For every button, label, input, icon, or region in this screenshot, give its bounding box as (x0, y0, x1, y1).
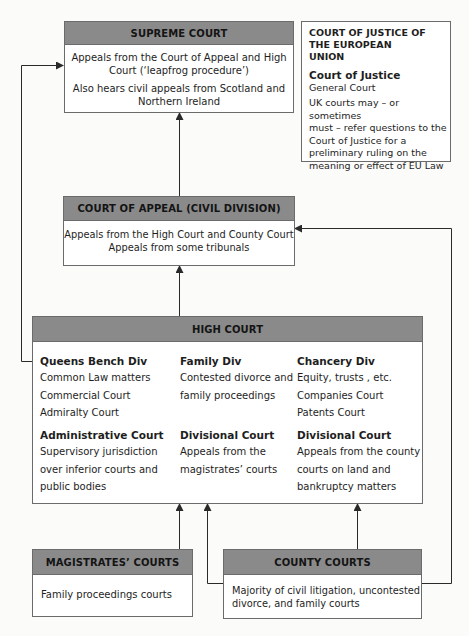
supreme-court-line: Appeals from the Court of Appeal and Hig… (65, 51, 293, 64)
cjeu-desc-line: must – refer questions to the (309, 122, 450, 135)
supreme-court-line: Also hears civil appeals from Scotland a… (65, 82, 293, 95)
supreme-court-box: SUPREME COURT Appeals from the Court of … (64, 21, 294, 113)
arrow-county-to-hc-left (208, 504, 224, 584)
division-queens-bench: Queens Bench Div Common Law matters Comm… (40, 354, 150, 422)
cjeu-desc-line: UK courts may – or sometimes (309, 97, 450, 122)
cjeu-title-line: COURT OF JUSTICE OF (309, 27, 450, 39)
cjeu-title-line: UNION (309, 51, 450, 63)
county-courts-line: divorce, and family courts (232, 597, 421, 610)
division-line: public bodies (40, 478, 164, 496)
division-divisional-magistrates: Divisional Court Appeals from the magist… (180, 428, 277, 478)
court-of-appeal-line: Appeals from some tribunals (64, 241, 294, 254)
high-court-title: HIGH COURT (33, 317, 422, 342)
cjeu-subtitle: Court of Justice (309, 69, 450, 82)
division-line: Appeals from the county (297, 443, 420, 461)
division-line: bankruptcy matters (297, 478, 420, 496)
cjeu-box: COURT OF JUSTICE OF THE EUROPEAN UNION C… (301, 21, 451, 162)
magistrates-courts-title: MAGISTRATES’ COURTS (33, 550, 192, 575)
division-line: Equity, trusts , etc. (297, 369, 392, 387)
cjeu-general-court: General Court (309, 82, 450, 94)
division-line: Common Law matters (40, 369, 150, 387)
court-of-appeal-title: COURT OF APPEAL (CIVIL DIVISION) (64, 197, 294, 221)
division-title: Administrative Court (40, 428, 164, 443)
division-line: Admiralty Court (40, 404, 150, 422)
division-divisional-county: Divisional Court Appeals from the county… (297, 428, 420, 496)
magistrates-courts-box: MAGISTRATES’ COURTS Family proceedings c… (32, 549, 193, 617)
cjeu-desc-line: preliminary ruling on the (309, 147, 450, 160)
division-line: Patents Court (297, 404, 392, 422)
county-courts-title: COUNTY COURTS (224, 550, 421, 575)
division-line: family proceedings (180, 387, 293, 405)
division-line: courts on land and (297, 461, 420, 479)
division-line: Supervisory jurisdiction (40, 443, 164, 461)
cjeu-desc-line: Court of Justice for a (309, 135, 450, 148)
division-title: Family Div (180, 354, 293, 369)
division-title: Divisional Court (180, 428, 277, 443)
court-of-appeal-line: Appeals from the High Court and County C… (64, 228, 294, 241)
division-administrative: Administrative Court Supervisory jurisdi… (40, 428, 164, 496)
division-line: Appeals from the (180, 443, 277, 461)
division-line: Companies Court (297, 387, 392, 405)
division-line: over inferior courts and (40, 461, 164, 479)
division-line: Commercial Court (40, 387, 150, 405)
division-chancery: Chancery Div Equity, trusts , etc. Compa… (297, 354, 392, 422)
supreme-court-title: SUPREME COURT (65, 22, 293, 45)
cjeu-desc-line: meaning or effect of EU Law (309, 160, 450, 173)
division-family: Family Div Contested divorce and family … (180, 354, 293, 404)
supreme-court-line: Northern Ireland (65, 95, 293, 108)
division-line: magistrates’ courts (180, 461, 277, 479)
division-title: Queens Bench Div (40, 354, 150, 369)
supreme-court-line: Court (‘leapfrog procedure’) (65, 64, 293, 77)
division-title: Chancery Div (297, 354, 392, 369)
division-title: Divisional Court (297, 428, 420, 443)
county-courts-box: COUNTY COURTS Majority of civil litigati… (223, 549, 422, 619)
high-court-box: HIGH COURT Queens Bench Div Common Law m… (32, 316, 423, 504)
county-courts-line: Majority of civil litigation, unconteste… (232, 584, 421, 597)
division-line: Contested divorce and (180, 369, 293, 387)
cjeu-title-line: THE EUROPEAN (309, 39, 450, 51)
magistrates-courts-line: Family proceedings courts (33, 575, 192, 600)
court-of-appeal-box: COURT OF APPEAL (CIVIL DIVISION) Appeals… (63, 196, 295, 266)
